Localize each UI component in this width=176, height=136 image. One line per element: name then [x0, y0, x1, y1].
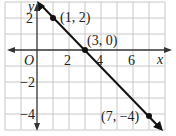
point-1-2: [50, 15, 56, 21]
x-arrow-left-icon: [7, 47, 15, 53]
point-label-1-2: (1, 2): [60, 10, 91, 26]
y-tick-neg4: −4: [20, 107, 35, 122]
origin-label: O: [24, 53, 34, 68]
x-tick-2: 2: [64, 53, 71, 68]
point-label-3-0: (3, 0): [87, 33, 118, 49]
point-label-7-neg4: (7, −4): [101, 109, 140, 125]
point-7-neg4: [146, 113, 152, 119]
x-arrow-right-icon: [164, 47, 172, 53]
x-tick-4: 4: [96, 53, 103, 68]
y-tick-2: 2: [26, 11, 33, 26]
y-tick-neg2: −2: [20, 75, 35, 90]
coordinate-plane: y x O 2 4 6 2 −2 −4 (1, 2) (3, 0) (7, −4…: [0, 0, 176, 136]
x-axis-label: x: [156, 52, 164, 67]
x-tick-6: 6: [128, 53, 135, 68]
